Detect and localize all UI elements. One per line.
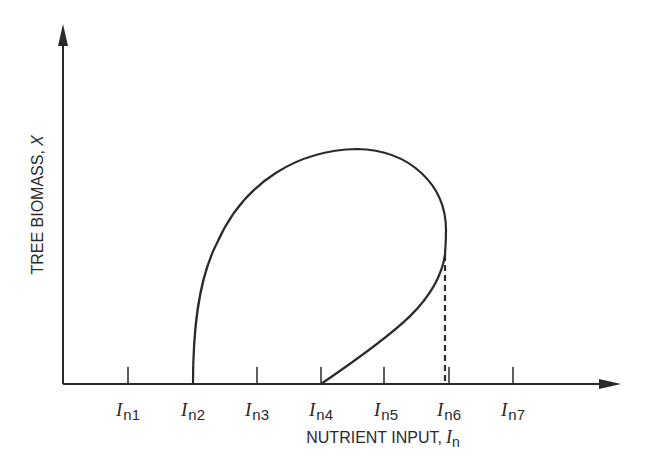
tick-label-in1: In1 [116,399,140,421]
x-ticks [128,367,513,384]
x-axis-label: NUTRIENT INPUT,In [306,427,460,448]
tick-label-in4: In4 [309,399,333,421]
y-axis-label: TREE BIOMASS,X [29,135,47,274]
tick-label-in6: In6 [437,399,461,421]
tick-label-in7: In7 [501,399,525,421]
hysteresis-curve [193,149,446,384]
y-axis-arrow-icon [58,24,68,46]
tick-label-in5: In5 [374,399,398,421]
tick-label-in2: In2 [181,399,205,421]
tick-label-in3: In3 [245,399,269,421]
x-axis-arrow-icon [599,379,621,389]
